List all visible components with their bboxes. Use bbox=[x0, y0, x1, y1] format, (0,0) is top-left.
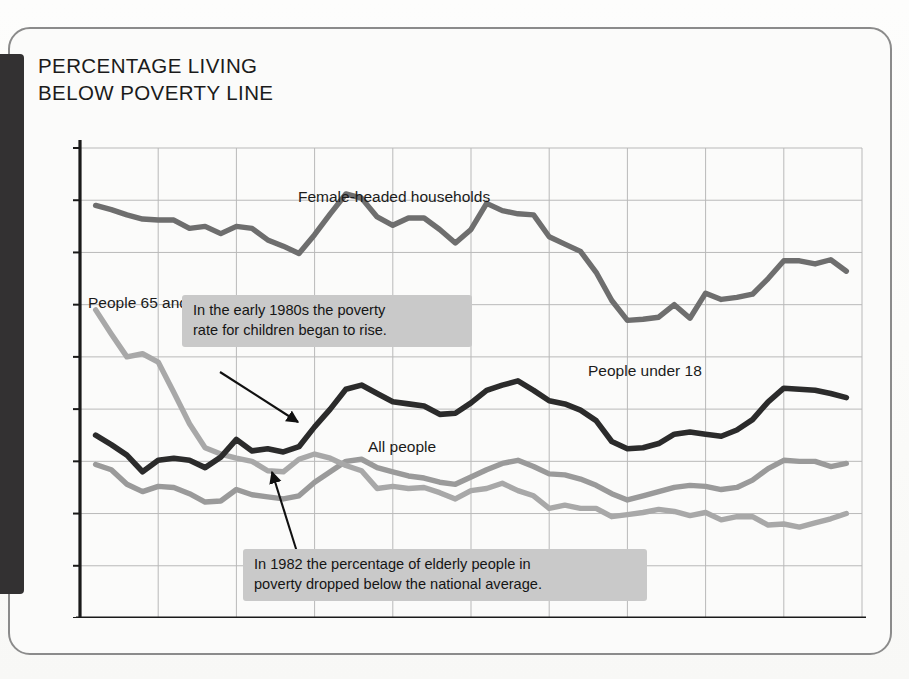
annotation-elderly-callout: In 1982 the percentage of elderly people… bbox=[243, 549, 647, 601]
chart-svg: 0510152025303540451965197019751980198519… bbox=[72, 140, 872, 618]
poverty-line-chart: 0510152025303540451965197019751980198519… bbox=[72, 140, 872, 618]
annotation-arrow-elderly bbox=[272, 472, 297, 552]
annotation-arrow-children bbox=[220, 372, 298, 422]
page-gutter-strip bbox=[0, 54, 24, 594]
series-label-all: All people bbox=[368, 438, 436, 455]
figure-title: PERCENTAGE LIVING BELOW POVERTY LINE bbox=[38, 52, 558, 106]
annotation-children-callout: In the early 1980s the poverty rate for … bbox=[182, 295, 472, 347]
series-label-female: Female-headed households bbox=[298, 188, 490, 205]
figure-page: PERCENTAGE LIVING BELOW POVERTY LINE 051… bbox=[0, 0, 909, 679]
gridlines bbox=[80, 148, 862, 618]
series-label-under18: People under 18 bbox=[588, 362, 702, 379]
